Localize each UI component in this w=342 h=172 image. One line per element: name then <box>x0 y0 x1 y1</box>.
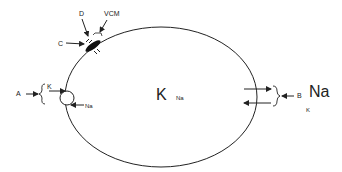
label-right-k: K <box>306 107 310 113</box>
arrow-vcm <box>100 20 107 32</box>
label-left-na: Na <box>85 103 93 109</box>
vcm-bracket <box>93 33 102 36</box>
label-c: C <box>58 40 63 47</box>
label-a: A <box>16 90 21 97</box>
arrow-d <box>82 19 88 36</box>
label-center-k: K <box>156 87 167 103</box>
label-vcm: VCM <box>104 10 120 17</box>
label-d: D <box>79 10 84 17</box>
label-center-na: Na <box>176 95 184 101</box>
label-left-k: K <box>47 83 52 90</box>
bracket-a <box>39 84 45 104</box>
label-right-na: Na <box>309 84 329 100</box>
label-b: B <box>297 92 302 99</box>
carrier-loop-icon <box>60 91 74 105</box>
membrane-complex-icon <box>84 38 102 54</box>
bracket-b <box>273 86 280 106</box>
arrow-c <box>66 43 84 44</box>
